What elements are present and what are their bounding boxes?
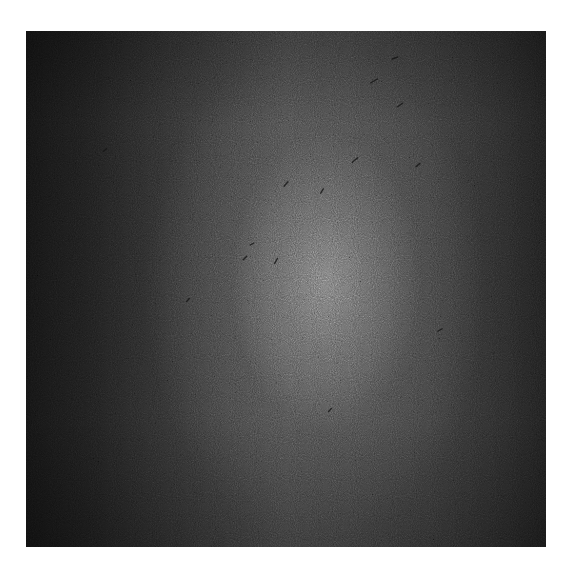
speck xyxy=(187,298,190,301)
speck xyxy=(398,103,403,106)
speck xyxy=(392,57,398,59)
texture-photo xyxy=(26,31,546,547)
speck xyxy=(321,189,324,193)
speck xyxy=(371,79,378,83)
page-background xyxy=(0,0,567,561)
speck xyxy=(352,158,357,162)
speck xyxy=(103,149,106,152)
speck xyxy=(416,163,420,166)
speck xyxy=(250,243,253,245)
speck xyxy=(243,256,247,260)
speck xyxy=(438,329,442,332)
speck xyxy=(329,409,332,412)
photo-specks xyxy=(26,31,546,547)
speck xyxy=(275,258,278,263)
speck xyxy=(284,182,288,187)
